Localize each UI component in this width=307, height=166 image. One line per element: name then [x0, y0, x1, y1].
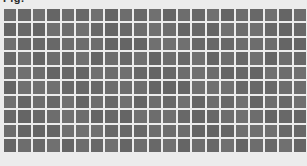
grid-cell: [47, 67, 59, 79]
grid-cell: [18, 139, 30, 151]
grid-cell: [207, 52, 219, 64]
grid-cell: [47, 9, 59, 21]
grid-cell: [76, 139, 88, 151]
grid-cell: [192, 125, 204, 137]
grid-cell: [120, 9, 132, 21]
grid-cell: [4, 9, 16, 21]
grid-cell: [279, 52, 291, 64]
grid-cell: [279, 9, 291, 21]
grid-cell: [178, 38, 190, 50]
grid-cell: [105, 52, 117, 64]
grid-cell: [91, 81, 103, 93]
grid-cell: [163, 9, 175, 21]
grid-cell: [294, 125, 306, 137]
grid-cell: [18, 38, 30, 50]
grid-cell: [91, 38, 103, 50]
grid-cell: [4, 23, 16, 35]
grid-cell: [120, 96, 132, 108]
grid-cell: [76, 110, 88, 122]
grid-cell: [76, 52, 88, 64]
grid-cell: [134, 81, 146, 93]
grid-cell: [236, 52, 248, 64]
grid-cell: [91, 52, 103, 64]
grid-cell: [178, 52, 190, 64]
grid-cell: [294, 81, 306, 93]
grid-cell: [279, 125, 291, 137]
grid-cell: [91, 139, 103, 151]
grid-cell: [192, 96, 204, 108]
grid-cell: [279, 38, 291, 50]
grid-cell: [163, 81, 175, 93]
grid-cell: [221, 110, 233, 122]
grid-cell: [105, 139, 117, 151]
grid-cell: [221, 96, 233, 108]
grid-cell: [294, 139, 306, 151]
grid-cell: [250, 38, 262, 50]
grid-cell: [250, 52, 262, 64]
grid-cell: [33, 67, 45, 79]
grid-cell: [178, 23, 190, 35]
grid-cell: [33, 9, 45, 21]
grid-cell: [294, 67, 306, 79]
grid-cell: [62, 110, 74, 122]
grid-cell: [4, 96, 16, 108]
grid-cell: [120, 38, 132, 50]
grid-cell: [207, 67, 219, 79]
grid-cell: [134, 139, 146, 151]
grid-cell: [62, 38, 74, 50]
grid-cell: [105, 81, 117, 93]
grid-cell: [134, 38, 146, 50]
grid-cell: [149, 125, 161, 137]
grid-cell: [62, 96, 74, 108]
grid-cell: [250, 23, 262, 35]
grid-cell: [76, 96, 88, 108]
grid-cell: [105, 110, 117, 122]
grid-cell: [134, 125, 146, 137]
grid-cell: [4, 67, 16, 79]
grid-cell: [33, 52, 45, 64]
grid-cell: [47, 38, 59, 50]
grid-cell: [294, 96, 306, 108]
grid-cell: [250, 125, 262, 137]
grid-cell: [265, 38, 277, 50]
grid-cell: [178, 139, 190, 151]
grid-cell: [236, 38, 248, 50]
grid-cell: [207, 96, 219, 108]
grid-cell: [265, 125, 277, 137]
grid-cell: [207, 125, 219, 137]
grid-cell: [207, 23, 219, 35]
grid-cell: [178, 110, 190, 122]
grid-cell: [265, 23, 277, 35]
grid-cell: [192, 38, 204, 50]
grid-cell: [105, 67, 117, 79]
grid-cell: [192, 23, 204, 35]
grid-cell: [18, 110, 30, 122]
grid-cell: [279, 81, 291, 93]
grid-cell: [62, 139, 74, 151]
grid-cell: [279, 67, 291, 79]
grid-cell: [236, 81, 248, 93]
grid-cell: [76, 38, 88, 50]
grid-cell: [18, 67, 30, 79]
grid-cell: [294, 23, 306, 35]
grid-cell: [236, 23, 248, 35]
grid-cell: [236, 67, 248, 79]
grid-cell: [279, 23, 291, 35]
grid-cell: [76, 9, 88, 21]
grid-cell: [236, 139, 248, 151]
grid-cell: [134, 9, 146, 21]
grid-cell: [178, 67, 190, 79]
grid-cell: [250, 96, 262, 108]
grid-cell: [207, 110, 219, 122]
grid-cell: [221, 9, 233, 21]
grid-cell: [33, 125, 45, 137]
grid-cell: [105, 96, 117, 108]
grid-cell: [18, 52, 30, 64]
grid-cell: [120, 110, 132, 122]
grid-cell: [105, 9, 117, 21]
grid-cell: [149, 23, 161, 35]
grid-cell: [265, 139, 277, 151]
grid-cell: [62, 81, 74, 93]
grid-cell: [192, 9, 204, 21]
grid-cell: [221, 81, 233, 93]
